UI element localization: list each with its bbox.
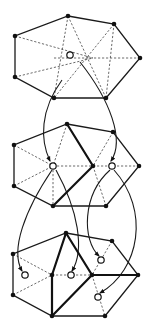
vertex bbox=[13, 34, 18, 39]
vertex bbox=[11, 252, 16, 257]
bold-edge bbox=[67, 124, 93, 166]
vertex bbox=[11, 293, 16, 298]
arrow-curve bbox=[80, 62, 116, 161]
vertex bbox=[51, 204, 56, 209]
panel-2-outline bbox=[14, 124, 139, 206]
bold-edge bbox=[66, 233, 92, 275]
interior-vertex bbox=[91, 164, 96, 169]
hollow-vertex bbox=[98, 257, 104, 263]
vertex bbox=[66, 14, 71, 19]
vertex bbox=[136, 273, 141, 278]
triangulation-diagram bbox=[0, 0, 152, 329]
bold-edge bbox=[52, 233, 66, 275]
interior-vertex bbox=[90, 273, 95, 278]
hollow-vertex bbox=[68, 272, 74, 278]
hollow-vertex bbox=[109, 163, 115, 169]
polygon-outlines bbox=[13, 16, 140, 316]
vertex bbox=[104, 96, 109, 101]
vertex bbox=[12, 184, 17, 189]
bold-edge bbox=[52, 275, 92, 316]
vertex bbox=[104, 204, 109, 209]
dashed-diagonal bbox=[14, 166, 53, 186]
vertex bbox=[112, 22, 117, 27]
vertex bbox=[12, 143, 17, 148]
dashed-diagonal bbox=[93, 166, 106, 206]
interior-vertex bbox=[50, 273, 55, 278]
dashed-diagonal bbox=[106, 24, 114, 98]
hollow-vertex bbox=[67, 52, 73, 58]
arrow-curve bbox=[87, 170, 110, 256]
dashed-diagonal bbox=[15, 58, 93, 77]
vertex bbox=[64, 231, 69, 236]
vertex bbox=[65, 122, 70, 127]
bold-edges bbox=[52, 124, 138, 316]
hollow-vertex bbox=[22, 272, 28, 278]
dashed-diagonal bbox=[53, 124, 67, 166]
transition-arrows bbox=[18, 62, 136, 293]
hollow-vertex bbox=[95, 294, 101, 300]
dashed-diagonal bbox=[13, 275, 52, 295]
dashed-diagonals bbox=[13, 16, 140, 316]
panel-1-outline bbox=[15, 16, 140, 98]
dashed-diagonal bbox=[93, 132, 113, 166]
arrow-curve bbox=[18, 170, 52, 271]
vertex bbox=[137, 164, 142, 169]
dashed-diagonal bbox=[54, 16, 68, 98]
vertex bbox=[111, 130, 116, 135]
dashed-diagonal bbox=[15, 36, 93, 58]
vertex bbox=[50, 314, 55, 319]
vertex bbox=[110, 239, 115, 244]
hollow-vertex bbox=[50, 163, 56, 169]
vertex bbox=[138, 56, 143, 61]
dashed-diagonal bbox=[68, 16, 106, 98]
dashed-diagonal bbox=[54, 24, 114, 98]
bold-edge bbox=[53, 166, 93, 206]
vertex bbox=[52, 96, 57, 101]
arrow-curve bbox=[44, 80, 62, 161]
vertex bbox=[103, 314, 108, 319]
vertex bbox=[13, 75, 18, 80]
